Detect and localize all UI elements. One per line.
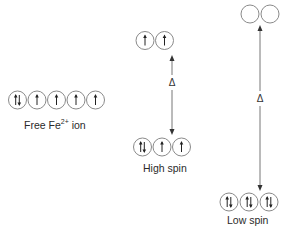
free-ion-label: Free Fe2+ ion: [24, 118, 86, 131]
free-ion-label-tail: ion: [69, 119, 86, 131]
low-spin-gap-arrow: Δ: [257, 25, 264, 191]
free-ion-charge: 2+: [61, 118, 69, 125]
orbital-up: [173, 138, 191, 156]
free-ion-orbitals: [9, 91, 105, 109]
orbital-up-down: [260, 193, 278, 211]
free-ion-label-text: Free Fe: [24, 119, 61, 131]
orbital-up-down: [240, 193, 258, 211]
orbital-empty: [241, 5, 259, 23]
diagram-canvas: Δ Δ: [0, 0, 288, 230]
low-spin-label: Low spin: [227, 214, 268, 226]
high-spin-label: High spin: [143, 162, 187, 174]
low-spin-delta: Δ: [257, 93, 264, 104]
orbital-up: [136, 32, 154, 50]
orbital-up: [87, 91, 105, 109]
low-spin-lower-orbitals: [220, 193, 278, 211]
orbital-up: [48, 91, 66, 109]
orbital-empty: [261, 5, 279, 23]
orbital-up-down: [9, 91, 27, 109]
orbital-up: [156, 32, 174, 50]
high-spin-lower-orbitals: [134, 138, 191, 156]
high-spin-gap-arrow: Δ: [169, 55, 176, 135]
orbital-up: [67, 91, 85, 109]
orbital-up: [28, 91, 46, 109]
orbital-up: [153, 138, 171, 156]
low-spin-upper-orbitals: [241, 5, 279, 23]
orbital-up-down: [134, 138, 152, 156]
high-spin-upper-orbitals: [136, 32, 174, 50]
high-spin-delta: Δ: [169, 77, 176, 88]
orbital-up-down: [220, 193, 238, 211]
